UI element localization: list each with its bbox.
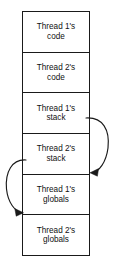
segment-thread-1-code: Thread 1's code [23,12,89,53]
segment-label-line2: code [47,73,65,83]
segment-label-line1: Thread 1's [37,22,75,32]
segment-label-line1: Thread 1's [37,104,75,114]
segment-label-line2: globals [43,195,69,205]
segment-label-line1: Thread 1's [37,185,75,195]
segment-label-line2: code [47,32,65,42]
thread-memory-diagram: Thread 1's code Thread 2's code Thread 1… [0,0,115,268]
segment-thread-2-stack: Thread 2's stack [23,134,89,175]
segment-thread-2-code: Thread 2's code [23,53,89,94]
memory-segment-stack: Thread 1's code Thread 2's code Thread 1… [22,11,90,256]
segment-label-line1: Thread 2's [37,226,75,236]
segment-label-line1: Thread 2's [37,63,75,73]
segment-label-line2: stack [46,113,65,123]
arrowhead-icon [90,169,99,177]
segment-thread-1-globals: Thread 1's globals [23,175,89,216]
segment-label-line2: stack [46,154,65,164]
segment-thread-1-stack: Thread 1's stack [23,93,89,134]
segment-label-line2: globals [43,235,69,245]
segment-thread-2-globals: Thread 2's globals [23,215,89,255]
segment-label-line1: Thread 2's [37,144,75,154]
